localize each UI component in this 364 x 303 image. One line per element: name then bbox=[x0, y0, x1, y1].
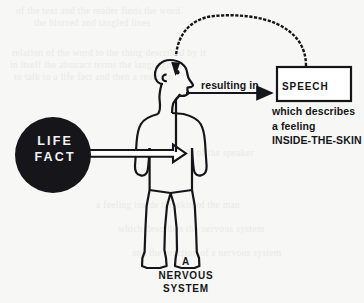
caption-line-2: NERVOUS bbox=[139, 269, 233, 283]
figure-caption: A NERVOUS SYSTEM bbox=[139, 255, 233, 296]
internal-pathway-line bbox=[176, 94, 180, 152]
desc-line-1: which describes bbox=[272, 104, 362, 119]
desc-line-2: a feeling bbox=[272, 119, 362, 134]
desc-line-3: INSIDE-THE-SKIN bbox=[272, 133, 362, 148]
caption-line-1: A bbox=[139, 255, 233, 269]
arrow-resulting-in-label: resulting in bbox=[201, 79, 259, 91]
diagram-page: of the text and the reader finds the wor… bbox=[0, 0, 364, 303]
caption-line-3: SYSTEM bbox=[139, 282, 233, 296]
node-speech-label: SPEECH bbox=[282, 81, 329, 92]
speech-description: which describes a feeling INSIDE-THE-SKI… bbox=[272, 104, 362, 148]
human-figure-outline bbox=[135, 60, 207, 268]
node-life-fact-circle bbox=[15, 117, 91, 193]
